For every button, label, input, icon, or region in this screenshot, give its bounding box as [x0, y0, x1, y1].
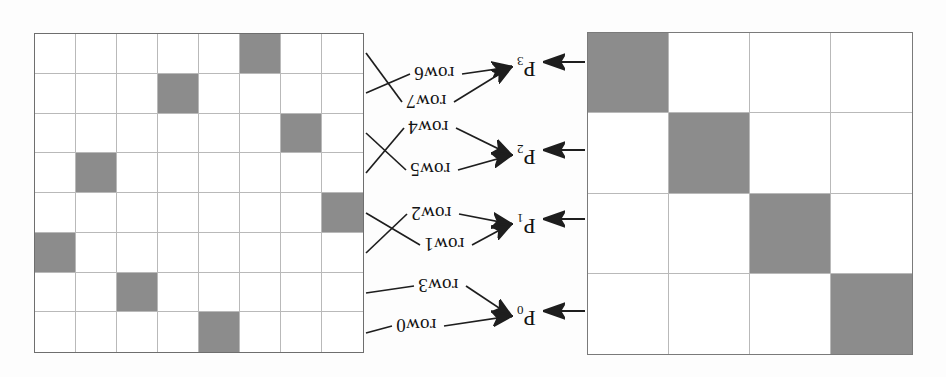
- memory-cell: [35, 312, 76, 352]
- processor-cell: [831, 33, 912, 113]
- memory-cell: [76, 193, 117, 233]
- memory-cell: [199, 34, 240, 74]
- processor-cell: [588, 113, 669, 193]
- connector-row6-to-P3: [462, 67, 511, 74]
- memory-cell: [35, 193, 76, 233]
- processor-cell: [588, 33, 669, 113]
- memory-cell: [240, 153, 281, 193]
- memory-cell: [158, 153, 199, 193]
- memory-cell: [35, 74, 76, 114]
- connector-grid-to-row5: [366, 133, 406, 170]
- connector-grid-to-row2: [366, 214, 407, 253]
- memory-cell: [240, 34, 281, 74]
- memory-cell: [322, 74, 363, 114]
- memory-cell: [76, 74, 117, 114]
- memory-cell: [322, 34, 363, 74]
- memory-cell: [199, 153, 240, 193]
- memory-cell: [158, 312, 199, 352]
- memory-cell: [76, 233, 117, 273]
- processor-cell: [750, 274, 831, 354]
- memory-cell: [117, 233, 158, 273]
- processor-cell: [831, 274, 912, 354]
- memory-cell: [76, 34, 117, 74]
- memory-cell: [322, 114, 363, 154]
- connector-grid-to-row4: [366, 128, 404, 173]
- figure-canvas: row6row7row4row5row2row1row3row0P3P2P1P0: [0, 0, 946, 377]
- connector-row3-to-P0: [466, 286, 511, 316]
- row-label-row5: row5: [410, 160, 450, 179]
- memory-cell: [158, 34, 199, 74]
- processor-label-P0: P0: [517, 304, 536, 329]
- memory-cell: [281, 193, 322, 233]
- memory-cell: [35, 273, 76, 313]
- row-label-row6: row6: [414, 64, 454, 83]
- row-label-row7: row7: [406, 92, 446, 111]
- memory-cell: [281, 74, 322, 114]
- row-label-row1: row1: [424, 235, 464, 254]
- connector-grid-to-row7: [366, 53, 402, 102]
- processor-cell: [750, 33, 831, 113]
- processor-cell: [750, 113, 831, 193]
- row-label-row2: row2: [411, 204, 451, 223]
- memory-cell: [117, 114, 158, 154]
- memory-cell: [117, 153, 158, 193]
- memory-cell: [117, 34, 158, 74]
- memory-bank-grid: [34, 33, 364, 353]
- memory-cell: [199, 233, 240, 273]
- connector-row5-to-P2: [458, 155, 511, 170]
- connector-row1-to-P1: [472, 224, 511, 245]
- connector-grid-to-row0: [366, 326, 392, 333]
- memory-cell: [35, 233, 76, 273]
- memory-cell: [240, 312, 281, 352]
- memory-cell: [240, 114, 281, 154]
- memory-cell: [281, 312, 322, 352]
- processor-cell: [831, 113, 912, 193]
- connector-row0-to-P0: [444, 316, 511, 326]
- memory-cell: [281, 153, 322, 193]
- memory-cell: [240, 74, 281, 114]
- connector-row2-to-P1: [459, 214, 511, 224]
- memory-cell: [240, 233, 281, 273]
- memory-cell: [35, 114, 76, 154]
- memory-cell: [199, 193, 240, 233]
- memory-cell: [322, 312, 363, 352]
- processor-label-P3: P3: [517, 55, 536, 80]
- processor-cell: [669, 33, 750, 113]
- memory-cell: [117, 273, 158, 313]
- processor-cell: [669, 113, 750, 193]
- row-label-row0: row0: [396, 316, 436, 335]
- processor-cell: [588, 274, 669, 354]
- processor-grid: [587, 32, 913, 355]
- memory-cell: [35, 153, 76, 193]
- processor-cell: [588, 194, 669, 274]
- memory-cell: [281, 233, 322, 273]
- memory-cell: [281, 114, 322, 154]
- processor-label-P2: P2: [517, 143, 536, 168]
- memory-cell: [158, 273, 199, 313]
- connector-row7-to-P3: [454, 67, 511, 102]
- memory-cell: [117, 193, 158, 233]
- memory-cell: [117, 312, 158, 352]
- row-label-row4: row4: [408, 118, 448, 137]
- memory-cell: [158, 233, 199, 273]
- processor-label-P1: P1: [517, 212, 536, 237]
- memory-cell: [281, 34, 322, 74]
- memory-cell: [76, 273, 117, 313]
- processor-cell: [831, 194, 912, 274]
- memory-cell: [322, 153, 363, 193]
- memory-cell: [158, 193, 199, 233]
- memory-cell: [199, 114, 240, 154]
- memory-cell: [76, 153, 117, 193]
- memory-cell: [281, 273, 322, 313]
- processor-cell: [750, 194, 831, 274]
- memory-cell: [158, 74, 199, 114]
- connector-grid-to-row3: [366, 286, 414, 293]
- processor-cell: [669, 194, 750, 274]
- connector-row4-to-P2: [456, 128, 511, 155]
- memory-cell: [76, 312, 117, 352]
- memory-cell: [199, 74, 240, 114]
- memory-cell: [76, 114, 117, 154]
- connector-grid-to-row6: [366, 74, 410, 93]
- memory-cell: [322, 273, 363, 313]
- memory-cell: [240, 193, 281, 233]
